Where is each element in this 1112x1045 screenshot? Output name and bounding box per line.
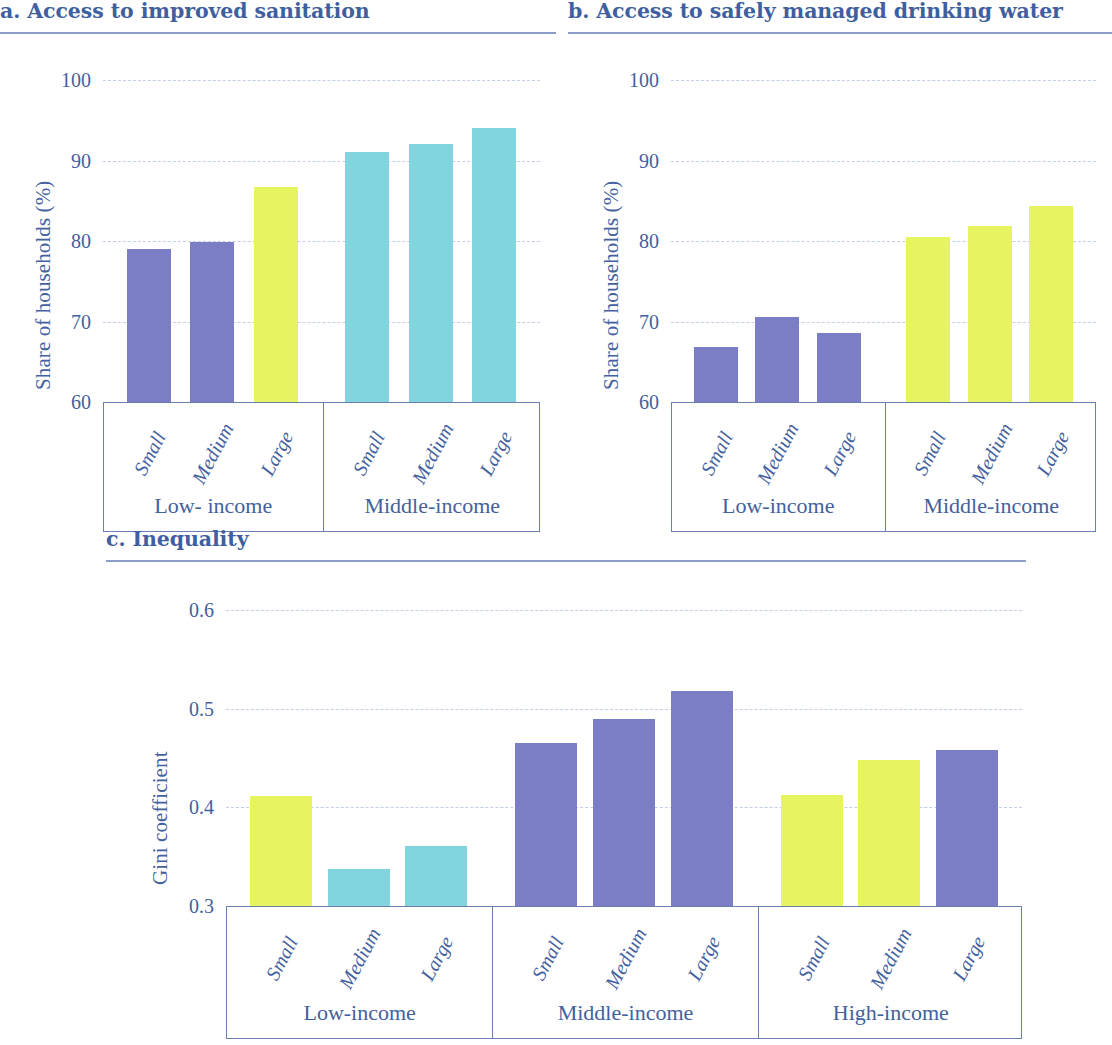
y-axis-tick-label: 100: [11, 69, 91, 92]
bar: [671, 691, 733, 906]
size-category-label: Small: [336, 404, 403, 503]
size-category-label: Medium: [180, 404, 247, 503]
income-group-label: Low- income: [104, 493, 323, 519]
size-category-label: Large: [404, 909, 471, 1008]
size-category-label: Large: [806, 404, 873, 503]
y-axis-tick-label: 60: [11, 391, 91, 414]
size-category-label: Large: [463, 404, 530, 503]
y-axis-tick-label: 0.5: [134, 697, 214, 720]
bar: [472, 128, 516, 403]
size-category-label: Large: [243, 404, 310, 503]
category-group-cell: SmallMediumLargeMiddle-income: [323, 403, 542, 531]
income-group-label: High-income: [759, 1000, 1023, 1026]
bars-layer: [671, 80, 1096, 402]
category-axis-box-a: SmallMediumLargeLow- incomeSmallMediumLa…: [103, 402, 540, 532]
bar: [694, 347, 738, 402]
size-category-label: Small: [248, 909, 315, 1008]
bar: [755, 317, 799, 402]
chart-b: Share of households (%)60708090100SmallM…: [568, 44, 1112, 520]
bar: [515, 743, 577, 906]
y-axis-tick-label: 80: [11, 230, 91, 253]
bar: [328, 869, 390, 906]
income-group-label: Low-income: [227, 1000, 492, 1026]
category-group-cell: SmallMediumLargeMiddle-income: [885, 403, 1098, 531]
bars-layer: [226, 610, 1022, 906]
bar: [593, 719, 655, 906]
y-axis-tick-label: 70: [579, 310, 659, 333]
category-group-cell: SmallMediumLargeLow-income: [227, 907, 492, 1038]
bars-layer: [103, 80, 540, 402]
bar: [250, 796, 312, 907]
panel-access-to-safely-managed-drinking-water: b. Access to safely managed drinking wat…: [568, 0, 1112, 520]
income-group-label: Middle-income: [493, 1000, 757, 1026]
panel-c-title: c. Inequality: [106, 528, 1026, 551]
size-category-label: Small: [780, 909, 847, 1008]
size-category-label: Small: [683, 404, 750, 503]
plot-area-b: [671, 80, 1096, 402]
size-category-label: Large: [1020, 404, 1087, 503]
category-group-cell: SmallMediumLargeMiddle-income: [492, 907, 757, 1038]
panel-a-title: a. Access to improved sanitation: [0, 0, 556, 23]
size-category-label: Medium: [592, 909, 659, 1008]
bar: [190, 242, 234, 402]
bar: [405, 846, 467, 906]
size-category-label: Medium: [399, 404, 466, 503]
size-category-label: Small: [116, 404, 183, 503]
bar: [858, 760, 920, 906]
category-group-cell: SmallMediumLargeHigh-income: [758, 907, 1023, 1038]
y-axis-label-b: Share of households (%): [599, 181, 624, 390]
panel-b-title-rule: [568, 32, 1112, 34]
panel-a-title-rule: [0, 32, 556, 34]
bar: [127, 249, 171, 402]
y-axis-tick-label: 60: [579, 391, 659, 414]
category-axis-box-b: SmallMediumLargeLow-incomeSmallMediumLar…: [671, 402, 1096, 532]
bar: [936, 750, 998, 906]
y-axis-label-a: Share of households (%): [31, 181, 56, 390]
bar: [1029, 206, 1073, 402]
plot-area-a: [103, 80, 540, 402]
panel-b-title: b. Access to safely managed drinking wat…: [568, 0, 1112, 23]
y-axis-tick-label: 0.4: [134, 796, 214, 819]
chart-c: Gini coefficient0.30.40.50.6SmallMediumL…: [106, 574, 1026, 1045]
y-axis-tick-label: 90: [579, 149, 659, 172]
category-group-cell: SmallMediumLargeLow-income: [672, 403, 885, 531]
bar: [345, 152, 389, 402]
size-category-label: Medium: [958, 404, 1025, 503]
bar: [781, 795, 843, 906]
panel-c-title-rule: [106, 560, 1026, 562]
category-group-cell: SmallMediumLargeLow- income: [104, 403, 323, 531]
y-axis-tick-label: 90: [11, 149, 91, 172]
size-category-label: Medium: [858, 909, 925, 1008]
income-group-label: Middle-income: [324, 493, 542, 519]
size-category-label: Medium: [745, 404, 812, 503]
bar: [968, 226, 1012, 402]
y-axis-tick-label: 70: [11, 310, 91, 333]
income-group-label: Low-income: [672, 493, 885, 519]
y-axis-tick-label: 0.6: [134, 599, 214, 622]
category-axis-box-c: SmallMediumLargeLow-incomeSmallMediumLar…: [226, 906, 1022, 1039]
panel-inequality: c. Inequality Gini coefficient0.30.40.50…: [106, 528, 1026, 1045]
size-category-label: Large: [670, 909, 737, 1008]
bar: [906, 237, 950, 402]
size-category-label: Medium: [326, 909, 393, 1008]
bar: [817, 333, 861, 402]
income-group-label: Middle-income: [886, 493, 1098, 519]
size-category-label: Large: [935, 909, 1002, 1008]
panel-access-to-improved-sanitation: a. Access to improved sanitation Share o…: [0, 0, 556, 520]
y-axis-tick-label: 100: [579, 69, 659, 92]
y-axis-tick-label: 0.3: [134, 895, 214, 918]
plot-area-c: [226, 610, 1022, 906]
size-category-label: Small: [515, 909, 582, 1008]
y-axis-tick-label: 80: [579, 230, 659, 253]
bar: [254, 187, 298, 402]
chart-a: Share of households (%)60708090100SmallM…: [0, 44, 556, 520]
size-category-label: Small: [897, 404, 964, 503]
bar: [409, 144, 453, 402]
